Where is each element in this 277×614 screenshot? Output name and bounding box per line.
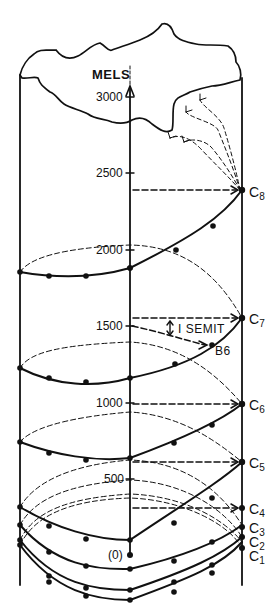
octave-label-c1: C1 — [249, 549, 265, 566]
pitch-helix-diagram — [0, 0, 277, 614]
origin-label: (0) — [108, 549, 123, 561]
octave-label-c8: C8 — [249, 185, 265, 202]
tick-label-3000: 3000 — [96, 91, 123, 103]
octave-label-c7: C7 — [249, 312, 265, 329]
octave-label-c4: C4 — [249, 502, 265, 519]
helix-points — [17, 187, 245, 603]
octave-label-c6: C6 — [249, 398, 265, 415]
rising-arrows — [170, 100, 240, 190]
axis-title: MELS — [92, 68, 130, 81]
tick-label-2500: 2500 — [96, 167, 123, 179]
helix-back — [20, 245, 242, 545]
tick-label-500: 500 — [104, 473, 124, 485]
octave-label-c5: C5 — [249, 456, 265, 473]
semitone-arrow — [167, 321, 173, 335]
semitone-label: I SEMIT — [178, 323, 225, 335]
b6-label: B6 — [215, 345, 231, 357]
tick-label-1000: 1000 — [96, 397, 123, 409]
tick-label-2000: 2000 — [96, 244, 123, 256]
tick-label-1500: 1500 — [96, 320, 123, 332]
